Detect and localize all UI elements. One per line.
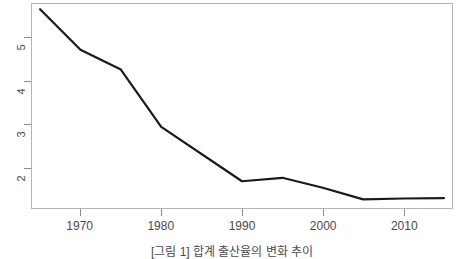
figure-caption: [그림 1] 합계 출산율의 변화 추이 [0, 245, 464, 259]
year-axis-tick-label: 1980 [136, 219, 186, 233]
year-axis-tick-label: 1990 [217, 219, 267, 233]
series-line-chart [32, 4, 452, 208]
year-axis-tick-mark [404, 209, 405, 216]
year-axis-tick-label: 2000 [298, 219, 348, 233]
year-axis-tick-label: 2010 [379, 219, 429, 233]
year-axis-tick-mark [80, 209, 81, 216]
plot-area [31, 3, 453, 209]
year-axis-tick-mark [323, 209, 324, 216]
year-axis-tick-mark [161, 209, 162, 216]
value-axis: 2345 [0, 0, 31, 212]
year-axis-tick-mark [242, 209, 243, 216]
value-axis-tick-label: 3 [16, 124, 27, 146]
value-axis-tick-label: 5 [16, 37, 27, 59]
value-axis-tick-label: 2 [16, 167, 27, 189]
year-axis-tick-label: 1970 [55, 219, 105, 233]
series-1-line [40, 9, 444, 199]
value-axis-tick-label: 4 [16, 80, 27, 102]
year-axis: 19701980199020002010 [31, 209, 453, 249]
